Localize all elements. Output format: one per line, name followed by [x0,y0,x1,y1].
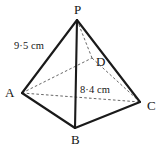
visible-edges-group [22,20,140,128]
slant-edge-length-label: 9·5 cm [14,41,44,52]
vertex-label-B: B [71,133,80,146]
edge-B-C [75,102,140,128]
vertex-label-D: D [96,55,105,68]
edge-A-B [22,93,75,128]
vertex-label-C: C [147,99,156,112]
edge-P-B [75,20,77,128]
base-diagonal-length-label: 8·4 cm [80,85,110,96]
pyramid-drawing [0,0,163,151]
edge-P-D [77,20,92,58]
edge-P-A [22,20,77,93]
pyramid-figure: P A B C D 9·5 cm 8·4 cm [0,0,163,151]
vertex-label-P: P [74,3,81,16]
vertex-label-A: A [5,86,14,99]
